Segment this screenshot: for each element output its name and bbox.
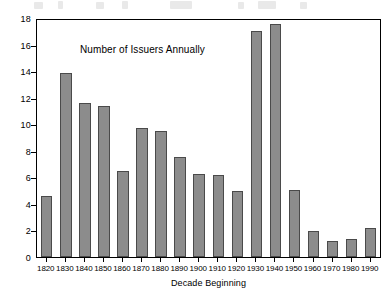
x-tick-label: 1850 bbox=[94, 264, 111, 274]
x-tick-label: 1830 bbox=[56, 264, 73, 274]
bar-1860 bbox=[117, 171, 128, 257]
x-tick-label: 1970 bbox=[323, 264, 340, 274]
y-tick-label: 10 bbox=[21, 121, 31, 130]
bar-1970 bbox=[327, 241, 338, 257]
bar-1920 bbox=[232, 191, 243, 257]
chart-figure: 18 16 14 12 10 8 6 4 2 0 bbox=[0, 0, 388, 296]
bar-1990 bbox=[365, 228, 376, 257]
x-tick-label: 1980 bbox=[342, 264, 359, 274]
bar-1890 bbox=[174, 157, 185, 257]
y-tick-label: 12 bbox=[21, 94, 31, 103]
x-axis-title: Decade Beginning bbox=[36, 278, 381, 289]
x-tick-label: 1910 bbox=[209, 264, 226, 274]
bar-1830 bbox=[60, 73, 71, 257]
x-tick-label: 1960 bbox=[304, 264, 321, 274]
x-tick-label: 1900 bbox=[189, 264, 206, 274]
chart-annotation: Number of Issuers Annually bbox=[80, 44, 205, 56]
x-tick-label: 1930 bbox=[247, 264, 264, 274]
x-tick-label: 1840 bbox=[75, 264, 92, 274]
x-tick-label: 1920 bbox=[228, 264, 245, 274]
cropped-title-artifact bbox=[0, 0, 388, 13]
x-tick-label: 1990 bbox=[361, 264, 378, 274]
x-tick-label: 1940 bbox=[266, 264, 283, 274]
bar-1840 bbox=[79, 103, 90, 257]
bar-1940 bbox=[270, 24, 281, 257]
x-tick-label: 1880 bbox=[151, 264, 168, 274]
bar-1980 bbox=[346, 239, 357, 257]
bar-1820 bbox=[41, 196, 52, 257]
x-axis-tick-labels: 1820 1830 1840 1850 1860 1870 1880 1890 … bbox=[36, 264, 381, 276]
bar-1930 bbox=[251, 31, 262, 257]
x-tick-label: 1860 bbox=[113, 264, 130, 274]
x-tick-label: 1870 bbox=[132, 264, 149, 274]
x-tick-label: 1820 bbox=[37, 264, 54, 274]
bar-1900 bbox=[193, 174, 204, 257]
y-axis-tick-labels: 18 16 14 12 10 8 6 4 2 0 bbox=[0, 19, 31, 258]
x-tick-label: 1950 bbox=[285, 264, 302, 274]
x-axis-tick-marks bbox=[36, 258, 381, 263]
bar-1880 bbox=[155, 131, 166, 257]
y-tick-label: 16 bbox=[21, 41, 31, 50]
bar-1910 bbox=[213, 175, 224, 257]
y-tick-label: 14 bbox=[21, 68, 31, 77]
x-tick-label: 1890 bbox=[170, 264, 187, 274]
bar-1850 bbox=[98, 106, 109, 257]
y-tick-label: 18 bbox=[21, 15, 31, 24]
bar-1960 bbox=[308, 231, 319, 257]
bar-1950 bbox=[289, 190, 300, 257]
bar-1870 bbox=[136, 128, 147, 257]
